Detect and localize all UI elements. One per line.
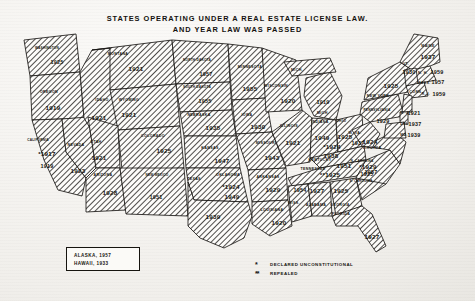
state-name-label: VT. (403, 62, 409, 66)
state-name-label: SOUTH DAKOTA (183, 85, 211, 89)
state-year-label: 1937 (421, 53, 436, 60)
state-year-label: 1924 (363, 138, 378, 145)
state-name-label: MICH. (291, 68, 303, 72)
state-year-label: 1927 (365, 233, 380, 240)
state-name-label: PENNSYLVANIA (364, 108, 391, 112)
state-year-label: 1919 (41, 163, 54, 169)
state-name-label: R. I. (422, 92, 430, 96)
asterisk-icon: * (255, 260, 270, 269)
state-name-label: LOUISIANA (261, 208, 284, 212)
state-year-label: 1957 (432, 79, 445, 85)
state-year-label: 1939 (408, 132, 421, 138)
state-name-label: NEBRASKA (187, 113, 210, 117)
state-name-label: IOWA (242, 113, 253, 117)
state-name-label: MASS. (417, 81, 430, 85)
state-year-label: 1929 (377, 118, 390, 124)
state-year-label: 1949 (315, 134, 330, 141)
state-name-label: W. VA. (348, 131, 361, 135)
state-name-label: IDAHO (95, 98, 108, 102)
state-name-label: CONN. (409, 90, 422, 94)
state-name-label: FLORIDA (332, 212, 350, 216)
state-name-label: MONTANA (108, 52, 129, 56)
state-name-label: CALIFORNIA (27, 138, 49, 142)
state-year-label: 1921 (408, 110, 421, 116)
state-name-label: INDIANA (311, 120, 328, 124)
state-name-label: OREGON (40, 90, 58, 94)
state-year-label: 1955 (243, 85, 258, 92)
state-year-label: 1957 (200, 71, 213, 77)
state-year-label: 1937 (352, 140, 365, 146)
state-name-label: MICH. (317, 111, 329, 115)
state-year-label: 1927 (310, 187, 325, 194)
state-mark-label: **1925 (320, 171, 340, 178)
state-year-label: 1951 (150, 194, 163, 200)
state-year-label: 1935 (206, 124, 221, 131)
state-year-label: 1919 (46, 104, 61, 111)
state-name-label: WISCONSIN (264, 84, 288, 88)
state-name-label: MINNESOTA (238, 65, 262, 69)
state-year-label: 1919 (317, 99, 330, 105)
state-year-label: 1923 (71, 167, 86, 174)
state-name-label: VIRGINIA (363, 146, 382, 150)
state-name-label: MISSOURI (256, 141, 277, 145)
state-year-label: 1949 (225, 193, 240, 200)
state-name-label: NEW MEXICO (146, 173, 169, 177)
state-year-label: 1920 (272, 219, 287, 226)
state-name-label: ARIZONA (94, 173, 113, 177)
state-year-label: 1925 (51, 59, 64, 65)
state-year-label: 1947 (215, 157, 230, 164)
state-year-label: 1943 (265, 154, 280, 161)
state-year-label: 1925 (157, 147, 172, 154)
state-name-label: UTAH (90, 140, 101, 144)
state-name-label: KENTUCKY (309, 158, 332, 162)
legend-repealed-label: REPEALED (270, 269, 298, 278)
state-mark-label: *1917 (38, 150, 56, 157)
state-name-label: GEORGIA (330, 203, 349, 207)
state-year-label: 1930 (403, 69, 416, 75)
state-year-label: 1954 (294, 187, 307, 193)
state-year-label: 1925 (334, 187, 349, 194)
state-year-label: 1921 (92, 154, 107, 161)
state-year-label: 1921 (122, 111, 137, 118)
double-asterisk-icon: ** (255, 269, 270, 278)
state-name-label: ILLINOIS (280, 124, 298, 128)
state-name-label: WYOMING (119, 98, 139, 102)
state-year-label: 1921 (129, 65, 144, 72)
state-name-label: NEVADA (67, 143, 84, 147)
state-name-label: N. H. (418, 71, 428, 75)
state-name-label: NORTH DAKOTA (183, 58, 211, 62)
state-year-label: 1939 (206, 213, 221, 220)
legend-unconstitutional: * DECLARED UNCONSTITUTIONAL (255, 260, 353, 269)
state-year-label: 1921 (286, 139, 301, 146)
state-year-label: 1925 (384, 82, 399, 89)
state-year-label: 1955 (199, 98, 212, 104)
legend-hawaii: HAWAII, 1933 (74, 260, 139, 268)
state-mark-label: *1924 (222, 183, 240, 190)
state-year-label: 1930 (251, 123, 266, 130)
state-name-label: MAINE (421, 44, 434, 48)
legend-repealed: ** REPEALED (255, 269, 353, 278)
state-year-label: 1937 (409, 121, 422, 127)
state-year-label: 1951 (337, 162, 352, 169)
state-name-label: ARKANSAS (256, 175, 279, 179)
state-year-label: 1928 (103, 189, 118, 196)
state-year-label: 1959 (433, 91, 446, 97)
state-year-label: 1957 (365, 169, 378, 175)
legend-alaska: ALASKA, 1957 (74, 252, 139, 260)
state-name-label: S. CAROLINA (350, 179, 373, 183)
state-name-label: OKLAHOMA (216, 173, 240, 177)
state-year-label: 1920 (281, 97, 296, 104)
state-shapes (24, 34, 440, 252)
state-year-label: 1929 (266, 186, 281, 193)
state-mark-label: *1924 (323, 143, 341, 150)
state-name-label: TEXAS (187, 177, 201, 181)
symbol-legend: * DECLARED UNCONSTITUTIONAL ** REPEALED (255, 260, 353, 278)
state-name-label: KANSAS (201, 146, 218, 150)
state-name-label: COLORADO (141, 134, 165, 138)
legend-unconstitutional-label: DECLARED UNCONSTITUTIONAL (270, 260, 353, 269)
state-name-label: NEW YORK (367, 94, 390, 98)
state-name-label: OHIO (336, 119, 347, 123)
state-year-label: 1959 (431, 69, 444, 75)
state-name-label: MISS. (288, 201, 300, 205)
state-name-label: ALABAMA (306, 203, 327, 207)
